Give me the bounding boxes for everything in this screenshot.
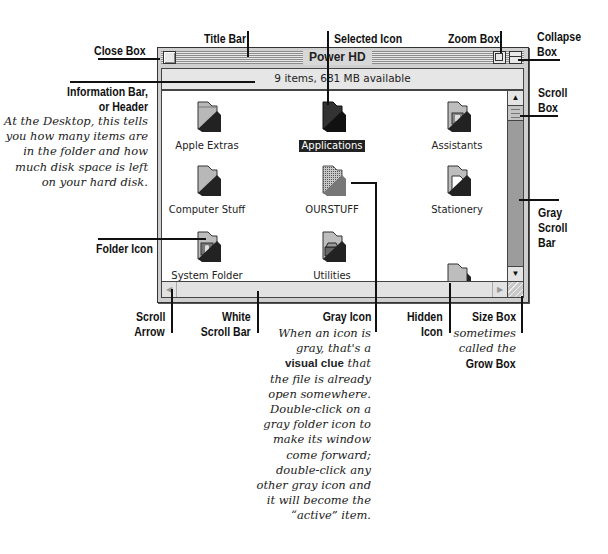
size-box-note: sometimes called the xyxy=(436,326,516,356)
leader-info-bar xyxy=(70,81,255,83)
callout-size-box: Size Box xyxy=(472,310,516,324)
gray-scroll-bar[interactable]: ▲ ▼ xyxy=(507,90,524,282)
close-box[interactable] xyxy=(163,51,176,64)
scroll-up-arrow[interactable]: ▲ xyxy=(508,91,523,106)
scroll-right-arrow[interactable]: ▶ xyxy=(492,282,507,297)
item-applications[interactable]: Applications xyxy=(287,99,377,153)
item-ourstuff[interactable]: OURSTUFF xyxy=(287,163,377,217)
leader-collapse-box xyxy=(518,59,560,61)
item-stationery[interactable]: Stationery xyxy=(412,163,502,217)
hidden-folder-icon xyxy=(440,261,474,282)
leader-gray-scroll-bar xyxy=(519,199,559,201)
callout-hidden-icon-1: Hidden xyxy=(407,310,443,324)
callout-gray-scroll-bar-3: Bar xyxy=(538,236,556,250)
callout-white-scroll-bar-1: White xyxy=(222,310,251,324)
window-content: Apple Extras Applications Assistants xyxy=(161,90,508,282)
item-hidden[interactable] xyxy=(412,261,502,282)
callout-grow-box: Grow Box xyxy=(466,357,516,371)
callout-info-bar-1: Information Bar, xyxy=(67,85,148,99)
leader-gray-icon-v xyxy=(375,182,377,332)
callout-scroll-box-2: Box xyxy=(538,101,558,115)
item-label: Apple Extras xyxy=(173,140,240,152)
callout-collapse-box-2: Box xyxy=(537,45,557,59)
item-apple-extras[interactable]: Apple Extras xyxy=(162,99,252,153)
white-scroll-bar[interactable]: ◀ ▶ xyxy=(161,281,508,298)
info-bar-note: At the Desktop, this tells you how many … xyxy=(0,114,148,190)
item-label: Computer Stuff xyxy=(167,204,247,216)
item-system-folder[interactable]: System Folder xyxy=(162,229,252,282)
callout-scroll-box-1: Scroll xyxy=(538,86,567,100)
gray-folder-icon xyxy=(315,163,349,197)
item-computer-stuff[interactable]: Computer Stuff xyxy=(162,163,252,217)
callout-collapse-box-1: Collapse xyxy=(537,30,581,44)
item-utilities[interactable]: Utilities xyxy=(287,229,377,282)
callout-zoom-box: Zoom Box xyxy=(448,32,500,46)
leader-zoom-box xyxy=(500,31,502,53)
gray-icon-note: When an icon is gray, that's a visual cl… xyxy=(211,326,371,524)
leader-gray-icon-h xyxy=(351,182,376,184)
scroll-down-arrow[interactable]: ▼ xyxy=(508,266,523,281)
leader-title-bar xyxy=(247,31,249,57)
item-label: Stationery xyxy=(429,204,485,216)
item-label: Applications xyxy=(299,140,364,152)
callout-info-bar-2: or Header xyxy=(99,100,148,114)
callout-gray-scroll-bar-2: Scroll xyxy=(538,221,567,235)
folder-icon xyxy=(315,99,349,133)
item-label: Assistants xyxy=(430,140,485,152)
callout-gray-icon: Gray Icon xyxy=(322,310,371,324)
window-title: Power HD xyxy=(303,50,372,65)
leader-folder-icon xyxy=(98,238,206,240)
item-label: OURSTUFF xyxy=(303,204,360,216)
leader-selected-icon xyxy=(327,31,329,105)
callout-scroll-arrow-1: Scroll xyxy=(136,310,165,324)
information-bar: 9 items, 681 MB available xyxy=(161,68,524,90)
stationery-folder-icon xyxy=(440,163,474,197)
callout-folder-icon: Folder Icon xyxy=(96,242,153,256)
callout-selected-icon: Selected Icon xyxy=(334,32,402,46)
callout-scroll-arrow-2: Arrow xyxy=(134,325,165,339)
callout-title-bar: Title Bar xyxy=(204,32,246,46)
leader-close-box xyxy=(98,58,160,60)
item-assistants[interactable]: Assistants xyxy=(412,99,502,153)
utilities-folder-icon xyxy=(315,229,349,263)
scroll-left-arrow[interactable]: ◀ xyxy=(162,282,177,297)
callout-gray-scroll-bar-1: Gray xyxy=(538,206,562,220)
assistants-folder-icon xyxy=(440,99,474,133)
folder-icon xyxy=(190,99,224,133)
title-bar[interactable]: Power HD xyxy=(161,51,524,64)
folder-icon xyxy=(190,163,224,197)
collapse-box[interactable] xyxy=(509,51,522,64)
callout-close-box: Close Box xyxy=(94,44,146,58)
leader-scroll-arrow xyxy=(171,289,173,333)
leader-scroll-box xyxy=(520,115,558,117)
scroll-box[interactable] xyxy=(508,106,523,121)
finder-window: Power HD 9 items, 681 MB available Apple… xyxy=(157,47,529,303)
system-folder-icon xyxy=(190,229,224,263)
visual-clue-emphasis: visual clue xyxy=(285,357,344,369)
leader-size-box xyxy=(521,296,523,333)
